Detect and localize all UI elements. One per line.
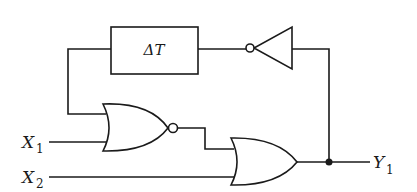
svg-text:X: X	[20, 132, 35, 152]
svg-text:1: 1	[36, 142, 44, 156]
svg-text:Y: Y	[373, 152, 386, 172]
wire-feedback	[292, 49, 329, 162]
wire-nor-to-or	[178, 128, 234, 149]
junction-dot-icon	[326, 159, 333, 166]
or-gate	[231, 138, 297, 185]
svg-text:1: 1	[386, 163, 394, 177]
nor-gate-body	[103, 104, 168, 151]
inverter-bubble-icon	[246, 44, 254, 52]
output-label-y1: Y 1	[373, 152, 394, 177]
delay-block-label: ΔT	[143, 41, 166, 59]
input-label-x1: X 1	[20, 132, 44, 156]
logic-circuit-diagram: ΔT X 1 X 2 Y 1	[0, 0, 417, 192]
nor-bubble-icon	[169, 124, 178, 133]
delay-block: ΔT	[111, 27, 198, 74]
or-gate-body	[231, 138, 297, 185]
svg-text:2: 2	[36, 177, 44, 191]
inverter-triangle	[254, 27, 292, 69]
svg-text:X: X	[20, 167, 35, 187]
input-label-x2: X 2	[20, 167, 44, 191]
not-gate	[246, 27, 292, 69]
nor-gate	[103, 104, 178, 151]
